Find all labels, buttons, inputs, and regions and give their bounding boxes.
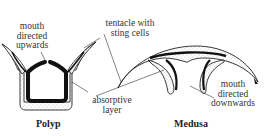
label-absorptive-layer: absorptive layer xyxy=(88,96,136,115)
polyp-medusa-diagram: mouth directed upwards tentacle with sti… xyxy=(0,0,264,136)
caption-polyp: Polyp xyxy=(36,118,60,129)
label-polyp-mouth: mouth directed upwards xyxy=(12,22,52,51)
label-line: layer xyxy=(88,106,136,116)
label-line: upwards xyxy=(12,41,52,51)
label-medusa-mouth: mouth directed downwards xyxy=(208,80,258,109)
polyp-shape xyxy=(2,42,96,110)
label-line: downwards xyxy=(208,99,258,109)
label-tentacle: tentacle with sting cells xyxy=(98,19,162,38)
caption-medusa: Medusa xyxy=(174,118,208,129)
label-line: sting cells xyxy=(98,29,162,39)
